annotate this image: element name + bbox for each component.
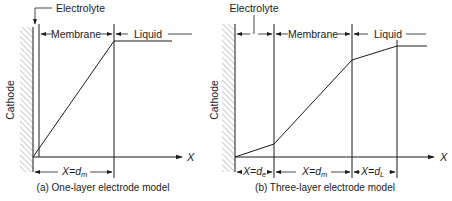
dim-dm-label: X=dm xyxy=(61,165,87,179)
liquid-label: Liquid xyxy=(374,28,402,40)
dim-de-label: X=de xyxy=(242,165,266,179)
electrolyte-leader xyxy=(35,8,52,24)
dim-dl-label: X=dL xyxy=(360,165,384,179)
cathode-wall-hatch xyxy=(20,27,33,172)
panel-a-one-layer: Cathode Electrolyte Membrane Liquid X X=… xyxy=(4,2,195,193)
liquid-label: Liquid xyxy=(134,28,162,40)
electrolyte-label: Electrolyte xyxy=(229,2,278,14)
membrane-label: Membrane xyxy=(51,28,101,40)
dim-dm-label: X=dm xyxy=(301,165,327,179)
x-axis-label-b: X xyxy=(439,151,448,163)
caption-a: (a) One-layer electrode model xyxy=(37,182,170,193)
electrode-model-figure: Cathode Electrolyte Membrane Liquid X X=… xyxy=(0,0,452,201)
cathode-wall-hatch xyxy=(222,24,235,172)
panel-b-three-layer: Cathode Electrolyte Membrane Liquid X X=… xyxy=(208,2,448,193)
x-axis-label-a: X xyxy=(186,151,195,163)
membrane-label: Membrane xyxy=(288,28,338,40)
electrolyte-label: Electrolyte xyxy=(56,2,105,14)
cathode-label: Cathode xyxy=(4,80,16,120)
caption-b: (b) Three-layer electrode model xyxy=(255,182,395,193)
concentration-profile-a xyxy=(33,41,172,157)
cathode-label: Cathode xyxy=(208,80,220,120)
concentration-profile-b xyxy=(235,46,427,157)
